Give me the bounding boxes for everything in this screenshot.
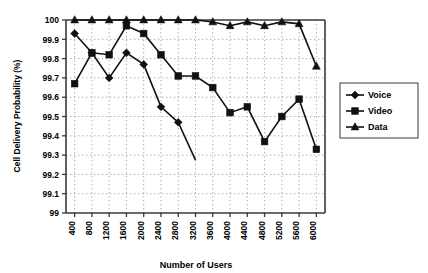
y-tick-label: 99.6 (42, 92, 59, 102)
y-tick-label: 99.2 (42, 170, 59, 180)
legend-label: Voice (368, 90, 391, 100)
x-tick-label: 2800 (170, 221, 180, 240)
y-axis-title: Cell Delivery Probability (%) (12, 59, 22, 172)
x-tick-label: 1200 (101, 221, 111, 240)
data-point (123, 22, 130, 29)
y-tick-label: 99.4 (42, 131, 59, 141)
data-point (244, 104, 251, 111)
chart-figure: 9999.199.299.399.499.599.699.799.899.910… (0, 0, 428, 273)
y-tick-label: 99.1 (42, 189, 59, 199)
x-tick-label: 3600 (205, 221, 215, 240)
x-tick-label: 4400 (239, 221, 249, 240)
x-tick-label: 800 (84, 221, 94, 235)
data-point (313, 146, 320, 153)
y-tick-label: 99.5 (42, 112, 59, 122)
data-point (158, 51, 165, 58)
y-tick-label: 99.8 (42, 54, 59, 64)
y-tick-label: 99.3 (42, 150, 59, 160)
data-point (209, 84, 216, 91)
data-point (89, 50, 96, 57)
data-point (227, 109, 234, 116)
x-tick-label: 2000 (136, 221, 146, 240)
x-tick-label: 5600 (291, 221, 301, 240)
legend-label: Video (368, 106, 393, 116)
square-marker-icon (352, 108, 359, 115)
data-point (192, 73, 199, 80)
data-point (261, 138, 268, 145)
data-point (296, 96, 303, 103)
y-tick-label: 100 (45, 15, 59, 25)
legend-label: Data (368, 122, 389, 132)
chart-legend: VoiceVideoData (340, 83, 418, 138)
x-tick-label: 2400 (153, 221, 163, 240)
x-tick-label: 6000 (308, 221, 318, 240)
data-point (140, 30, 147, 37)
x-tick-label: 5200 (274, 221, 284, 240)
data-point (106, 51, 113, 58)
y-tick-label: 99 (50, 208, 60, 218)
x-tick-label: 400 (67, 221, 77, 235)
y-tick-label: 99.7 (42, 73, 59, 83)
x-tick-label: 4800 (257, 221, 267, 240)
data-point (175, 73, 182, 80)
x-tick-label: 1600 (118, 221, 128, 240)
x-tick-label: 3200 (188, 221, 198, 240)
y-tick-label: 99.9 (42, 35, 59, 45)
x-tick-label: 4000 (222, 221, 232, 240)
data-point (71, 80, 78, 87)
data-point (279, 113, 286, 120)
x-axis-title: Number of Users (160, 260, 233, 270)
